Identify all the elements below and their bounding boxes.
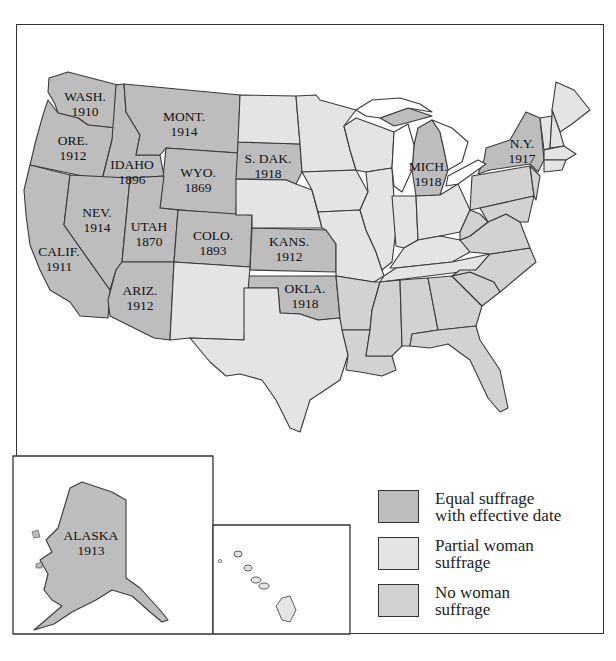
legend-swatch-equal: [378, 490, 419, 523]
state-new-mexico: [170, 262, 250, 340]
legend: Equal suffrage with effective date Parti…: [378, 490, 608, 631]
legend-swatch-none: [378, 584, 419, 617]
svg-text:ORE.1912: ORE.1912: [58, 133, 88, 163]
legend-label-partial: Partial woman suffrage: [435, 537, 534, 571]
svg-text:N.Y.1917: N.Y.1917: [509, 136, 536, 166]
legend-item-equal: Equal suffrage with effective date: [378, 490, 608, 524]
svg-text:WYO.1869: WYO.1869: [180, 165, 216, 195]
state-florida: [410, 326, 508, 412]
svg-text:UTAH1870: UTAH1870: [131, 219, 168, 249]
state-indiana: [392, 196, 418, 248]
legend-label-none: No woman suffrage: [435, 584, 510, 618]
legend-swatch-partial: [378, 537, 419, 570]
legend-item-partial: Partial woman suffrage: [378, 537, 608, 571]
lake-michigan: [392, 124, 414, 192]
svg-text:NEV.1914: NEV.1914: [82, 205, 111, 235]
hawaii-niihau: [218, 560, 222, 563]
svg-text:ARIZ.1912: ARIZ.1912: [123, 283, 158, 313]
legend-item-none: No woman suffrage: [378, 584, 608, 618]
state-rhode-island-ct: [544, 160, 566, 172]
legend-label-equal: Equal suffrage with effective date: [435, 490, 561, 524]
state-north-dakota: [238, 95, 300, 144]
